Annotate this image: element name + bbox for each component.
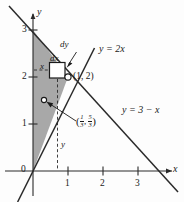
dx-label: dx — [50, 54, 59, 63]
dy-label: dy — [60, 40, 69, 49]
y-axis-label: y — [37, 7, 41, 17]
dy-arrowhead — [67, 62, 73, 68]
x-tick-label-2: 2 — [100, 179, 105, 189]
centroid-point-label: (13, 53) — [76, 114, 96, 129]
math-figure: y x 0 1 2 3 1 2 3 y = 2x y = 3 − x (1, 2… — [0, 0, 184, 202]
intersection-point-label: (1, 2) — [73, 72, 94, 82]
y-axis-arrowhead — [31, 13, 36, 19]
x-tick-label-1: 1 — [65, 179, 70, 189]
equation-label-y-3-minus-x: y = 3 − x — [122, 105, 159, 115]
intersection-point-marker — [65, 74, 71, 80]
equation-label-y-2x: y = 2x — [99, 44, 125, 54]
x-distance-label: x — [40, 62, 44, 71]
centroid-point-marker — [41, 97, 46, 102]
origin-label: 0 — [21, 165, 26, 175]
x-axis-arrowhead — [166, 169, 172, 174]
figure-canvas — [0, 0, 184, 202]
y-tick-label-2: 2 — [22, 72, 27, 82]
y-distance-label: y — [61, 140, 65, 149]
x-axis-label: x — [173, 164, 177, 174]
close-paren: ) — [92, 115, 96, 127]
y-tick-label-1: 1 — [22, 119, 27, 129]
differential-element-square — [50, 63, 66, 79]
y-tick-label-3: 3 — [22, 25, 27, 35]
x-tick-label-3: 3 — [135, 179, 140, 189]
